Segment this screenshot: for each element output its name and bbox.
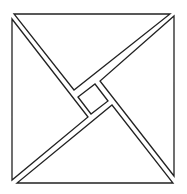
pinwheel-square-diagram	[0, 0, 187, 194]
